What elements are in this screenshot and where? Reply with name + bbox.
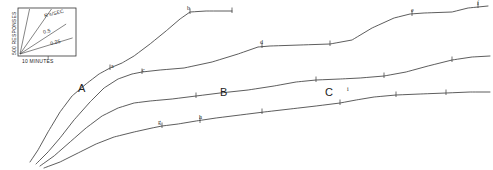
legend-rate-line xyxy=(20,24,66,54)
legend-box-graphic xyxy=(18,8,76,59)
record-curve-d xyxy=(44,92,490,168)
record-curve-b xyxy=(36,6,488,164)
cumulative-record-figure xyxy=(0,0,493,170)
record-curves xyxy=(30,3,490,169)
legend-rate-line xyxy=(20,38,73,54)
record-curve-a xyxy=(30,11,232,162)
record-curve-c xyxy=(40,56,490,166)
